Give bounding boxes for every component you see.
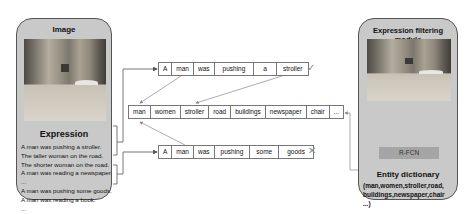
- expression-item: A man was reading a book.: [21, 196, 112, 205]
- bottom-token-sequence: A man was pushing some goods: [158, 145, 314, 159]
- expression-item: ...: [21, 178, 112, 187]
- token-cell: road: [209, 106, 231, 118]
- expression-list: A man was pushing a stroller. The taller…: [21, 143, 112, 213]
- image-expression-panel: Image Expression A man was pushing a str…: [16, 18, 112, 200]
- cross-icon: ✕: [308, 145, 316, 156]
- token-cell: pushing: [215, 146, 251, 158]
- rfcn-detector-box: R-FCN: [379, 147, 439, 159]
- token-cell: chair: [307, 106, 330, 118]
- street-scene-image: [24, 39, 106, 121]
- dictionary-line: buildings,newspaper,chair: [363, 190, 445, 199]
- token-cell: man: [129, 106, 151, 118]
- token-cell: a: [254, 63, 277, 75]
- expression-filtering-module-panel: Expression filtering module R-FCN Entity…: [358, 18, 458, 200]
- expression-item: ...: [21, 205, 112, 214]
- token-cell: man: [172, 146, 194, 158]
- image-title: Image: [17, 25, 111, 34]
- token-cell: ...: [330, 106, 343, 118]
- token-cell: buildings: [231, 106, 266, 118]
- token-cell: A: [159, 63, 172, 75]
- expression-item: A man was pushing some goods.: [21, 187, 112, 196]
- token-cell: newspaper: [266, 106, 307, 118]
- expression-item: A man was reading a newspaper.: [21, 169, 112, 178]
- dictionary-line: ...): [363, 199, 445, 208]
- token-cell: was: [194, 146, 215, 158]
- check-icon: ✓: [307, 62, 315, 73]
- entity-dictionary-title: Entity dictionary: [359, 170, 457, 179]
- entity-dictionary-list: (man,women,stroller,road, buildings,news…: [363, 181, 445, 208]
- token-cell: women: [151, 106, 181, 118]
- token-cell: stroller: [277, 63, 309, 75]
- expression-item: A man was pushing a stroller.: [21, 143, 112, 152]
- street-scene-image: [367, 39, 451, 101]
- token-cell: some: [250, 146, 279, 158]
- expression-item: The shorter woman on the road.: [21, 161, 112, 170]
- dictionary-token-sequence: man women stroller road buildings newspa…: [128, 105, 344, 119]
- token-cell: was: [194, 63, 215, 75]
- top-token-sequence: A man was pushing a stroller: [158, 62, 309, 76]
- token-cell: stroller: [181, 106, 210, 118]
- dictionary-line: (man,women,stroller,road,: [363, 181, 445, 190]
- expression-title: Expression: [17, 129, 111, 139]
- token-cell: A: [159, 146, 172, 158]
- expression-item: The taller woman on the road.: [21, 152, 112, 161]
- token-cell: man: [172, 63, 194, 75]
- token-cell: pushing: [215, 63, 255, 75]
